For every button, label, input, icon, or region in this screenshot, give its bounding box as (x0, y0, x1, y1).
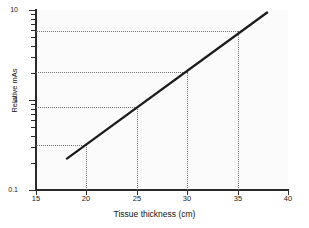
y-tick-major (29, 100, 36, 101)
chart-figure: 1010.1 152025303540 Tissue thickness (cm… (0, 0, 309, 228)
x-axis-line (35, 189, 289, 191)
y-tick-minor (31, 37, 36, 38)
guide-line-horizontal (36, 107, 137, 108)
guide-line-horizontal (36, 145, 86, 146)
y-tick-minor (31, 147, 36, 148)
x-tick-label: 35 (226, 194, 250, 203)
y-tick-minor (31, 73, 36, 74)
x-tick-label: 40 (276, 194, 300, 203)
y-tick-minor (31, 114, 36, 115)
y-tick-major (29, 190, 36, 191)
guide-line-vertical (86, 145, 87, 190)
guide-line-horizontal (36, 72, 187, 73)
y-tick-minor (31, 109, 36, 110)
y-tick-label: 0.1 (8, 186, 18, 194)
x-tick-label: 25 (125, 194, 149, 203)
y-tick-minor (31, 163, 36, 164)
y-tick-minor (31, 57, 36, 58)
y-tick-minor (31, 136, 36, 137)
plot-area (36, 10, 288, 190)
y-tick-major (29, 10, 36, 11)
x-axis-title: Tissue thickness (cm) (0, 209, 309, 219)
x-tick-label: 30 (175, 194, 199, 203)
y-tick-minor (31, 104, 36, 105)
x-tick-label: 20 (74, 194, 98, 203)
y-tick-minor (31, 120, 36, 121)
y-axis-title: Relative mAs (10, 41, 19, 141)
y-tick-minor (31, 14, 36, 15)
y-tick-minor (31, 24, 36, 25)
guide-line-vertical (187, 72, 188, 190)
guide-line-vertical (238, 31, 239, 190)
guide-line-vertical (137, 107, 138, 190)
y-tick-minor (31, 19, 36, 20)
x-tick-label: 15 (24, 194, 48, 203)
y-tick-minor (31, 46, 36, 47)
y-tick-minor (31, 127, 36, 128)
guide-line-horizontal (36, 31, 238, 32)
y-tick-label: 10 (10, 6, 18, 14)
